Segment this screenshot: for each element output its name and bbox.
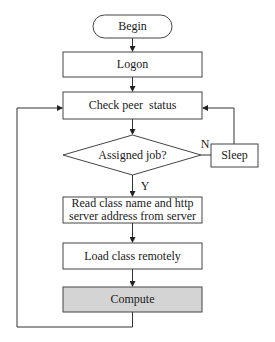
yes-edge-label: Y — [139, 180, 151, 192]
logon-label: Logon — [63, 52, 202, 77]
read-class-label-line2: server address from server — [69, 210, 196, 223]
check-peer-status-label: Check peer status — [63, 92, 202, 119]
begin-label: Begin — [93, 15, 172, 38]
flowchart: Begin Logon Check peer status Assigned j… — [0, 0, 275, 342]
sleep-label: Sleep — [211, 144, 258, 167]
read-class-label: Read class name and http server address … — [63, 197, 202, 223]
assigned-job-label: Assigned job? — [63, 135, 202, 175]
load-class-label: Load class remotely — [63, 243, 202, 269]
no-edge-label: N — [200, 138, 210, 150]
compute-label: Compute — [63, 287, 202, 312]
